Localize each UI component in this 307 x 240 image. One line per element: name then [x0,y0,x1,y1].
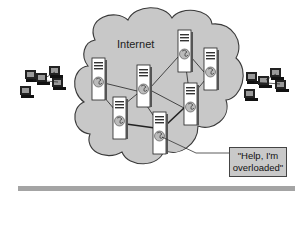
callout-line-1: "Help, I'm [230,150,286,162]
callout-line-2: overloaded" [230,162,286,174]
server-S7-overloaded [153,112,168,154]
server-S3 [178,30,193,72]
server-S4 [204,48,219,90]
server-S5 [184,83,199,125]
bottom-divider-bar [18,186,295,191]
cloud-label: Internet [117,38,154,50]
server-S2 [137,65,152,107]
overloaded-callout: "Help, I'm overloaded" [229,147,287,177]
server-S1 [92,58,107,100]
right-client-group [244,68,289,101]
left-client-group [20,66,66,98]
server-S6 [113,97,128,139]
